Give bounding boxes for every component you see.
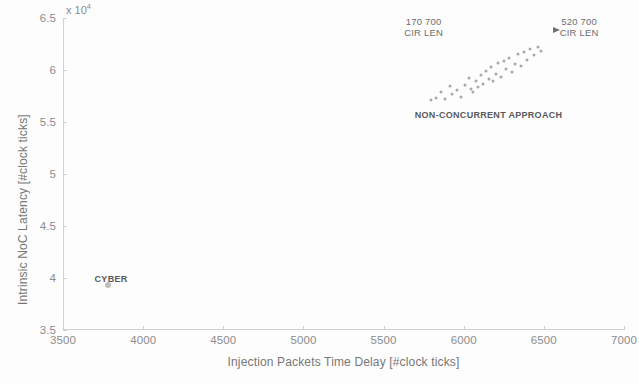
plot-canvas <box>63 18 624 330</box>
data-point <box>510 71 513 74</box>
x-axis-line <box>63 329 624 330</box>
data-point <box>522 50 525 53</box>
x-axis-tick-mark <box>143 326 144 330</box>
y-axis-multiplier-text: x 10 <box>66 4 87 16</box>
data-point <box>474 79 477 82</box>
data-point <box>497 62 500 65</box>
data-point <box>533 53 536 56</box>
data-point <box>444 98 447 101</box>
data-point <box>451 93 454 96</box>
annotation-cyber: CYBER <box>95 274 128 286</box>
x-axis-tick-mark <box>384 326 385 330</box>
x-axis-tick-label: 6500 <box>531 334 557 346</box>
x-axis-tick-label: 7000 <box>611 334 637 346</box>
data-point <box>449 85 452 88</box>
y-axis-tick-mark <box>63 174 67 175</box>
y-axis-tick-mark <box>63 18 67 19</box>
data-point <box>460 95 463 98</box>
data-point <box>472 90 475 93</box>
x-axis-tick-mark <box>464 326 465 330</box>
y-axis-tick-mark <box>63 122 67 123</box>
data-point <box>487 77 490 80</box>
data-point <box>508 56 511 59</box>
annotation-cir-len-520-line2: CIR LEN <box>560 27 599 39</box>
y-axis-exponent-value: 4 <box>87 2 91 11</box>
x-axis-title: Injection Packets Time Delay [#clock tic… <box>63 355 624 369</box>
data-point <box>435 96 438 99</box>
data-point <box>429 98 432 101</box>
y-axis-tick-mark <box>63 330 67 331</box>
annotation-cir-len-520: 520 700CIR LEN <box>560 16 599 39</box>
x-axis-tick-mark <box>544 326 545 330</box>
y-axis-tick-label: 5.5 <box>40 116 56 128</box>
annotation-cir-len-170-line2: CIR LEN <box>404 27 443 39</box>
annotation-cir-len-520-line1: 520 700 <box>560 16 599 28</box>
data-point <box>502 59 505 62</box>
y-axis-tick-label: 6 <box>50 64 57 76</box>
data-point <box>517 53 520 56</box>
x-axis-tick-label: 4000 <box>130 334 156 346</box>
y-axis-tick-label: 6.5 <box>40 12 56 24</box>
data-point <box>456 88 459 91</box>
data-point <box>485 70 488 73</box>
data-point <box>489 66 492 69</box>
y-axis-tick-mark <box>63 278 67 279</box>
data-point <box>494 73 497 76</box>
data-point <box>505 67 508 70</box>
data-point <box>481 82 484 85</box>
annotation-non-concurrent: NON-CONCURRENT APPROACH <box>415 110 563 122</box>
x-axis-tick-label: 6000 <box>451 334 477 346</box>
data-point <box>492 80 495 83</box>
x-axis-tick-label: 3500 <box>50 334 76 346</box>
data-point <box>540 49 543 52</box>
y-axis-tick-mark <box>63 70 67 71</box>
x-axis-tick-label: 5500 <box>371 334 397 346</box>
annotation-cir-len-170: 170 700CIR LEN <box>404 16 443 39</box>
y-axis-tick-label: 4.5 <box>40 220 56 232</box>
x-axis-tick-label: 5000 <box>290 334 316 346</box>
cir-len-pointer-arrow-icon <box>553 27 560 33</box>
x-axis-tick-mark <box>223 326 224 330</box>
annotation-cir-len-170-line1: 170 700 <box>404 16 443 28</box>
y-axis-tick-label: 4 <box>50 272 57 284</box>
data-point <box>467 76 470 79</box>
x-axis-tick-label: 4500 <box>210 334 236 346</box>
data-point <box>537 46 540 49</box>
scatter-plot-figure: x 104 3.544.555.566.5 Injection Packets … <box>0 0 639 384</box>
y-axis-exponent-label: x 104 <box>66 2 91 16</box>
x-axis-tick-mark <box>624 326 625 330</box>
data-point <box>514 63 517 66</box>
y-axis-tick-mark <box>63 226 67 227</box>
data-point <box>464 83 467 86</box>
data-point <box>529 48 532 51</box>
data-point <box>519 65 522 68</box>
data-point <box>479 74 482 77</box>
x-axis-tick-mark <box>303 326 304 330</box>
data-point <box>440 90 443 93</box>
data-point <box>477 86 480 89</box>
data-point <box>499 75 502 78</box>
y-axis-title: Intrinsic NoC Latency [#clock ticks] <box>16 114 30 305</box>
data-point <box>526 58 529 61</box>
y-axis-tick-label: 5 <box>50 168 57 180</box>
